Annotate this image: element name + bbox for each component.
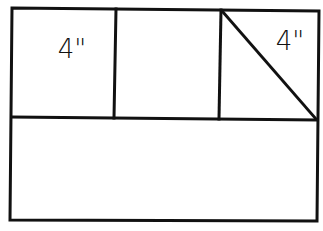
- horizontal-divider: [12, 117, 317, 120]
- vertical-divider-2: [219, 10, 221, 119]
- quilt-diagram: 4" 4": [0, 0, 323, 231]
- vertical-divider-1: [114, 9, 116, 118]
- left-square-label: 4": [58, 34, 87, 64]
- right-triangle-label: 4": [276, 26, 305, 56]
- outer-border: [10, 8, 319, 221]
